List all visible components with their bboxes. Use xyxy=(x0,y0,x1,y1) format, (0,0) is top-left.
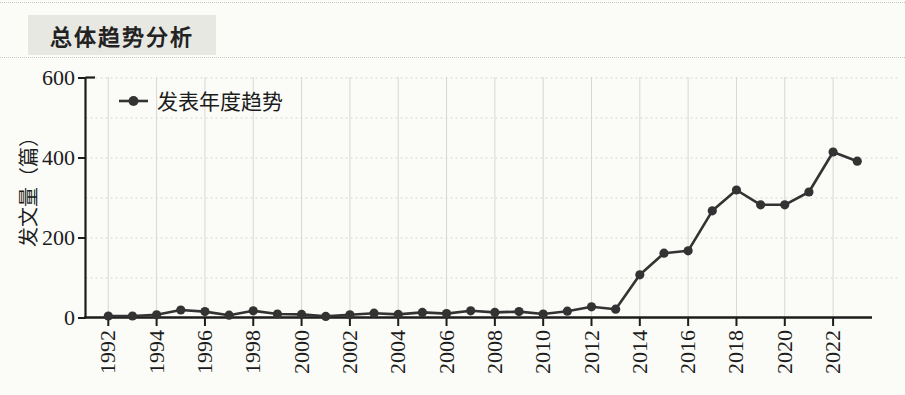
data-point xyxy=(684,246,693,255)
x-tick-label: 2008 xyxy=(482,330,507,374)
data-point xyxy=(587,302,596,311)
data-point xyxy=(708,206,717,215)
x-tick-label: 2010 xyxy=(530,330,555,374)
x-tick-label: 1992 xyxy=(95,330,120,374)
data-point xyxy=(225,311,234,320)
data-point xyxy=(176,305,185,314)
y-tick-label: 200 xyxy=(42,225,75,250)
x-tick-label: 2004 xyxy=(385,330,410,374)
trend-line xyxy=(108,152,857,316)
data-point xyxy=(297,310,306,319)
data-point xyxy=(659,249,668,258)
x-tick-label: 1994 xyxy=(144,330,169,374)
x-tick-label: 2014 xyxy=(627,330,652,374)
x-tick-label: 2016 xyxy=(675,330,700,374)
data-point xyxy=(514,307,523,316)
x-tick-label: 1996 xyxy=(192,330,217,374)
legend-marker-dot xyxy=(129,96,139,106)
trend-line-chart: 0200400600199219941996199820002002200420… xyxy=(0,0,905,395)
data-point xyxy=(780,200,789,209)
data-point xyxy=(152,310,161,319)
y-axis-title: 发文量（篇） xyxy=(18,127,40,247)
x-tick-label: 1998 xyxy=(240,330,265,374)
legend: 发表年度趋势 xyxy=(119,90,283,114)
data-point xyxy=(200,307,209,316)
y-tick-label: 0 xyxy=(64,305,75,330)
x-tick-label: 2000 xyxy=(289,330,314,374)
data-point xyxy=(756,200,765,209)
data-point xyxy=(249,306,258,315)
data-point xyxy=(611,305,620,314)
x-tick-label: 2020 xyxy=(772,330,797,374)
x-tick-label: 2006 xyxy=(434,330,459,374)
data-point xyxy=(394,310,403,319)
data-point xyxy=(442,309,451,318)
data-point xyxy=(466,306,475,315)
x-tick-label: 2012 xyxy=(579,330,604,374)
y-tick-label: 400 xyxy=(42,145,75,170)
data-point xyxy=(539,309,548,318)
data-point xyxy=(321,312,330,321)
data-point xyxy=(563,307,572,316)
x-tick-label: 2022 xyxy=(820,330,845,374)
data-points xyxy=(104,147,862,321)
y-tick-label: 600 xyxy=(42,65,75,90)
data-point xyxy=(490,308,499,317)
legend-label: 发表年度趋势 xyxy=(157,90,283,114)
data-point xyxy=(128,311,137,320)
data-point xyxy=(804,187,813,196)
data-point xyxy=(635,270,644,279)
data-point xyxy=(732,185,741,194)
data-point xyxy=(369,309,378,318)
data-point xyxy=(345,310,354,319)
data-point xyxy=(273,309,282,318)
data-point xyxy=(853,157,862,166)
data-point xyxy=(418,308,427,317)
x-tick-label: 2018 xyxy=(723,330,748,374)
x-tick-label: 2002 xyxy=(337,330,362,374)
data-point xyxy=(829,147,838,156)
data-point xyxy=(104,311,113,320)
